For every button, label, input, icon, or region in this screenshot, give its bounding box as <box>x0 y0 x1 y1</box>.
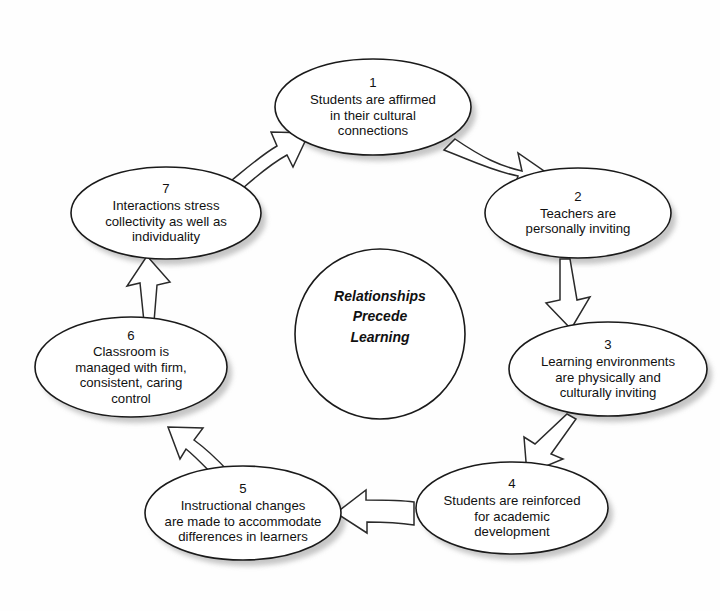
node-2-shape[interactable] <box>485 168 671 258</box>
node-5-shape[interactable] <box>145 466 341 560</box>
arrow-7-to-1 <box>232 132 309 188</box>
node-3-shape[interactable] <box>509 322 707 416</box>
arrow-2-to-3 <box>546 259 590 329</box>
center-circle-shape <box>295 249 465 419</box>
arrow-4-to-5 <box>336 490 414 533</box>
arrow-6-to-7 <box>127 256 170 322</box>
node-6-shape[interactable] <box>35 317 227 417</box>
node-4-shape[interactable] <box>416 462 608 554</box>
node-7-shape[interactable] <box>71 167 261 259</box>
diagram-canvas <box>0 0 720 611</box>
cycle-diagram: 1 Students are affirmed in their cultura… <box>0 0 720 611</box>
node-1-shape[interactable] <box>275 59 471 155</box>
